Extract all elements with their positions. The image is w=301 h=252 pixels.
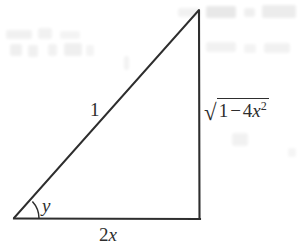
vertical-leg-label: √1−4x2: [204, 99, 269, 122]
radicand-variable: x: [252, 100, 260, 121]
triangle-vertical-leg-line: [199, 11, 200, 219]
triangle-figure: 1 y 2x √1−4x2: [0, 0, 301, 252]
base-variable: x: [109, 224, 117, 245]
triangle-hypotenuse-line: [14, 10, 199, 218]
radicand-coefficient: 4: [243, 100, 253, 121]
radicand-exponent: 2: [261, 99, 267, 113]
angle-label: y: [42, 196, 50, 215]
base-label: 2x: [99, 225, 117, 244]
triangle-base-line: [14, 219, 200, 220]
radicand-operator: −: [228, 100, 243, 121]
radical-sign-icon: √: [204, 101, 217, 124]
base-coefficient: 2: [99, 224, 109, 245]
angle-arc: [32, 202, 39, 219]
hypotenuse-label: 1: [90, 100, 100, 119]
square-root-expression: √1−4x2: [204, 99, 269, 122]
radicand-first-term: 1: [219, 100, 229, 121]
radicand: 1−4x2: [217, 98, 269, 120]
